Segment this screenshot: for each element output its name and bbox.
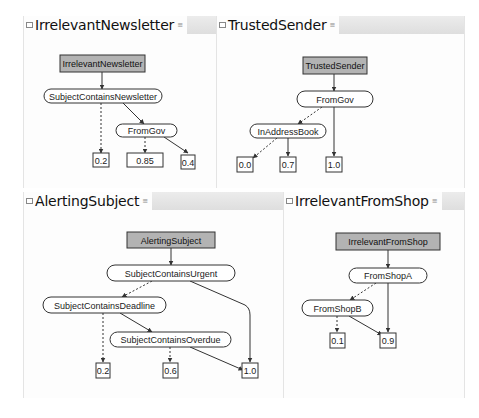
decision-node[interactable]: FromShopA (349, 268, 427, 283)
decision-node[interactable]: FromGov (116, 124, 177, 137)
svg-text:IrrelevantNewsletter: IrrelevantNewsletter (62, 59, 142, 69)
svg-text:InAddressBook: InAddressBook (257, 127, 319, 137)
svg-text:0.2: 0.2 (95, 156, 108, 166)
leaf-node[interactable]: 0.2 (96, 363, 110, 378)
decision-diagrams: IrrelevantNewsletter SubjectContainsNews… (0, 0, 479, 418)
leaf-node[interactable]: 0.9 (380, 333, 396, 348)
svg-text:FromGov: FromGov (316, 95, 354, 105)
leaf-node[interactable]: 0.7 (280, 157, 296, 172)
leaf-node[interactable]: 0.2 (93, 153, 109, 167)
svg-text:FromShopA: FromShopA (364, 271, 412, 281)
svg-text:SubjectContainsOverdue: SubjectContainsOverdue (120, 335, 220, 345)
svg-text:0.2: 0.2 (97, 366, 110, 376)
svg-text:SubjectContainsNewsletter: SubjectContainsNewsletter (49, 92, 157, 102)
decision-node[interactable]: SubjectContainsUrgent (107, 265, 235, 281)
decision-node[interactable]: InAddressBook (250, 124, 326, 138)
svg-text:SubjectContainsUrgent: SubjectContainsUrgent (125, 269, 218, 279)
leaf-node[interactable]: 1.0 (242, 363, 258, 378)
svg-text:1.0: 1.0 (244, 366, 257, 376)
decision-node[interactable]: FromShopB (302, 300, 373, 316)
root-node[interactable]: AlertingSubject (127, 232, 215, 248)
svg-text:0.7: 0.7 (282, 160, 295, 170)
svg-text:AlertingSubject: AlertingSubject (141, 236, 202, 246)
decision-node[interactable]: SubjectContainsNewsletter (44, 89, 162, 103)
svg-text:SubjectContainsDeadline: SubjectContainsDeadline (54, 301, 155, 311)
svg-text:FromGov: FromGov (128, 126, 166, 136)
root-node[interactable]: IrrelevantNewsletter (60, 55, 145, 72)
root-node[interactable]: IrrelevantFromShop (336, 233, 440, 250)
decision-node[interactable]: FromGov (297, 91, 373, 107)
leaf-node[interactable]: 0.0 (237, 157, 253, 172)
svg-text:0.85: 0.85 (136, 156, 154, 166)
svg-text:0.6: 0.6 (164, 366, 177, 376)
root-node[interactable]: TrustedSender (303, 57, 367, 74)
svg-text:0.4: 0.4 (182, 158, 195, 168)
svg-text:0.9: 0.9 (382, 336, 395, 346)
svg-text:0.1: 0.1 (331, 336, 344, 346)
leaf-node[interactable]: 0.1 (330, 333, 345, 348)
svg-text:FromShopB: FromShopB (313, 304, 361, 314)
leaf-node[interactable]: 0.4 (181, 155, 195, 169)
svg-text:1.0: 1.0 (328, 160, 341, 170)
leaf-node[interactable]: 0.85 (127, 153, 163, 167)
leaf-node[interactable]: 0.6 (163, 363, 178, 378)
decision-node[interactable]: SubjectContainsDeadline (43, 297, 166, 313)
leaf-node[interactable]: 1.0 (326, 157, 342, 172)
svg-text:TrustedSender: TrustedSender (305, 61, 364, 71)
decision-node[interactable]: SubjectContainsOverdue (110, 332, 231, 347)
svg-text:0.0: 0.0 (239, 160, 252, 170)
svg-text:IrrelevantFromShop: IrrelevantFromShop (348, 237, 428, 247)
